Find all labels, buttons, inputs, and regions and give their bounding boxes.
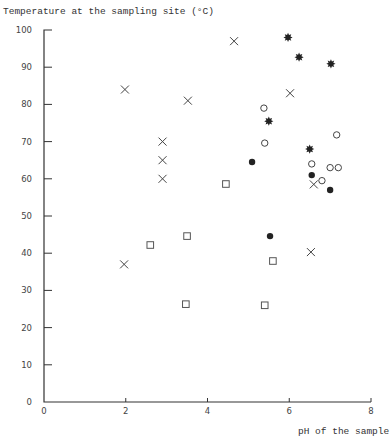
y-tick-label: 100 <box>16 25 32 35</box>
axes <box>44 30 371 402</box>
open-circle-marker <box>333 132 339 138</box>
star-marker <box>283 33 292 42</box>
x-tick-label: 8 <box>368 406 373 416</box>
cross-marker <box>159 175 167 183</box>
open-square-marker <box>270 258 277 265</box>
filled-circle-marker <box>267 233 273 239</box>
open-square-marker <box>223 181 230 188</box>
scatter-chart: Temperature at the sampling site (°C) pH… <box>0 0 392 447</box>
series-open-square <box>147 181 276 309</box>
open-square-marker <box>184 233 191 240</box>
y-tick-label: 40 <box>21 248 32 258</box>
y-tick-label: 50 <box>21 211 32 221</box>
star-marker <box>305 144 314 153</box>
series-open-circle <box>261 105 342 184</box>
open-circle-marker <box>335 164 341 170</box>
open-circle-marker <box>261 105 267 111</box>
x-tick-label: 2 <box>123 406 128 416</box>
open-circle-marker <box>327 164 333 170</box>
filled-circle-marker <box>309 172 315 178</box>
open-square-marker <box>261 302 268 309</box>
cross-marker <box>286 89 294 97</box>
y-tick-label: 60 <box>21 174 32 184</box>
cross-marker <box>120 260 128 268</box>
axis-ticks: 010203040506070809010002468 <box>16 25 374 416</box>
cross-marker <box>159 138 167 146</box>
star-marker <box>326 59 335 68</box>
open-circle-marker <box>262 140 268 146</box>
series-star <box>264 33 335 154</box>
open-square-marker <box>147 242 154 249</box>
cross-marker <box>310 180 318 188</box>
x-tick-label: 0 <box>41 406 46 416</box>
open-circle-marker <box>309 161 315 167</box>
filled-circle-marker <box>249 159 255 165</box>
x-tick-label: 4 <box>205 406 210 416</box>
y-tick-label: 0 <box>27 397 32 407</box>
y-tick-label: 90 <box>21 62 32 72</box>
filled-circle-marker <box>327 187 333 193</box>
y-axis-title: Temperature at the sampling site (°C) <box>3 6 214 17</box>
cross-marker <box>159 156 167 164</box>
y-tick-label: 70 <box>21 137 32 147</box>
cross-marker <box>230 37 238 45</box>
open-square-marker <box>183 301 190 308</box>
star-marker <box>294 53 303 62</box>
x-axis-title: pH of the sample <box>298 426 390 437</box>
cross-marker <box>307 248 315 256</box>
series-cross <box>120 37 318 268</box>
cross-marker <box>184 97 192 105</box>
axis-lines <box>44 30 371 402</box>
star-marker <box>264 117 273 126</box>
y-tick-label: 20 <box>21 323 32 333</box>
data-points <box>120 33 341 309</box>
cross-marker <box>121 86 129 94</box>
y-tick-label: 30 <box>21 285 32 295</box>
x-tick-label: 6 <box>287 406 292 416</box>
open-circle-marker <box>319 177 325 183</box>
y-tick-label: 80 <box>21 99 32 109</box>
y-tick-label: 10 <box>21 360 32 370</box>
series-filled-circle <box>249 159 333 239</box>
